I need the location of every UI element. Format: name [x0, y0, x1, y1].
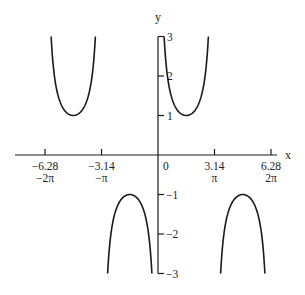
y-tick-label: −2 — [166, 228, 178, 240]
csc-branch — [51, 37, 95, 116]
y-tick-label: 3 — [167, 31, 173, 43]
csc-chart: −6.28−2π−3.14−π3.14π6.282π321−1−2−30xy — [0, 0, 305, 295]
y-tick-label: −3 — [166, 268, 178, 280]
x-axis-label: x — [285, 148, 291, 162]
x-tick-label: −6.28 — [32, 160, 59, 172]
x-tick-sublabel: −π — [95, 172, 107, 184]
y-tick-label: 2 — [167, 70, 173, 82]
y-tick-label: −1 — [166, 189, 178, 201]
labels: −6.28−2π−3.14−π3.14π6.282π321−1−2−30xy — [32, 10, 291, 280]
csc-branch — [221, 195, 265, 274]
x-tick-label: −3.14 — [88, 160, 115, 172]
x-tick-sublabel: −2π — [36, 172, 54, 184]
origin-label: 0 — [163, 160, 169, 172]
y-tick-label: 1 — [167, 110, 173, 122]
x-tick-sublabel: π — [212, 172, 218, 184]
x-tick-label: 3.14 — [204, 160, 224, 172]
x-tick-sublabel: 2π — [265, 172, 277, 184]
x-tick-label: 6.28 — [261, 160, 281, 172]
csc-branch — [108, 195, 152, 274]
y-axis-label: y — [155, 10, 161, 24]
